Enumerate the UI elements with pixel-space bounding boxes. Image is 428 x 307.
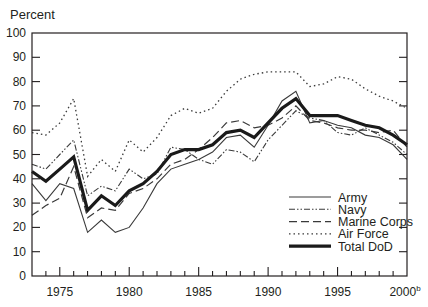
- legend-label: Total DoD: [338, 240, 393, 254]
- legend: ArmyNavyMarine CorpsAir ForceTotal DoD: [289, 191, 413, 254]
- y-tick-label: 80: [13, 75, 27, 89]
- y-tick-label: 10: [13, 245, 27, 259]
- y-tick-label: 0: [19, 269, 26, 283]
- y-tick-label: 70: [13, 99, 27, 113]
- y-tick-label: 20: [13, 220, 27, 234]
- line-chart: Percent 0102030405060708090100 197519801…: [0, 0, 428, 307]
- x-tick-label: 1980: [116, 285, 143, 299]
- y-tick-label: 30: [13, 196, 27, 210]
- y-tick-label: 90: [13, 50, 27, 64]
- x-tick-label: 1990: [255, 285, 282, 299]
- series-air-force: [32, 72, 407, 176]
- y-tick-label: 50: [13, 148, 27, 162]
- y-tick-label: 100: [6, 26, 26, 40]
- x-tick-label: 2000b: [389, 284, 421, 299]
- y-tick-label: 40: [13, 172, 27, 186]
- x-tick-label: 1995: [324, 285, 351, 299]
- y-tick-label: 60: [13, 123, 27, 137]
- x-tick-label: 1975: [46, 285, 73, 299]
- series-navy: [32, 111, 407, 196]
- y-axis-label: Percent: [10, 7, 55, 22]
- x-axis: 197519801985199019952000b: [46, 267, 421, 299]
- x-tick-label: 1985: [185, 285, 212, 299]
